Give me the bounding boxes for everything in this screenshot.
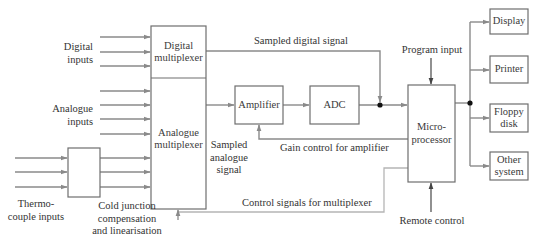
microprocessor-label: Micro- processor (408, 85, 455, 182)
sampled-analogue-signal-label: Sampled analogue signal (207, 139, 251, 177)
other-system-label: Other system (490, 152, 528, 180)
digital-inputs-label: Digital inputs (40, 41, 93, 66)
digital-multiplexer-label: Digital multiplexer (151, 26, 206, 78)
remote-control-label: Remote control (396, 215, 468, 228)
display-label: Display (490, 9, 528, 34)
gain-control-label: Gain control for amplifier (280, 142, 389, 155)
floppy-disk-label: Floppy disk (490, 104, 528, 132)
gain-control-line (259, 125, 408, 139)
adc-label: ADC (310, 86, 359, 124)
control-signals-label: Control signals for multiplexer (242, 197, 372, 210)
printer-label: Printer (490, 56, 528, 83)
amplifier-label: Amplifier (235, 86, 283, 124)
program-input-label: Program input (398, 44, 466, 57)
thermocouple-inputs-label: Thermo- couple inputs (4, 198, 68, 223)
cjc-caption: Cold junction compensation and linearisa… (88, 200, 166, 238)
cjc-box (68, 148, 100, 197)
adc-junction-dot (377, 102, 382, 107)
analogue-multiplexer-label: Analogue multiplexer (151, 126, 206, 152)
output-junction-dot (467, 100, 472, 105)
sampled-digital-signal-label: Sampled digital signal (254, 35, 348, 48)
analogue-inputs-label: Analogue inputs (40, 103, 93, 128)
